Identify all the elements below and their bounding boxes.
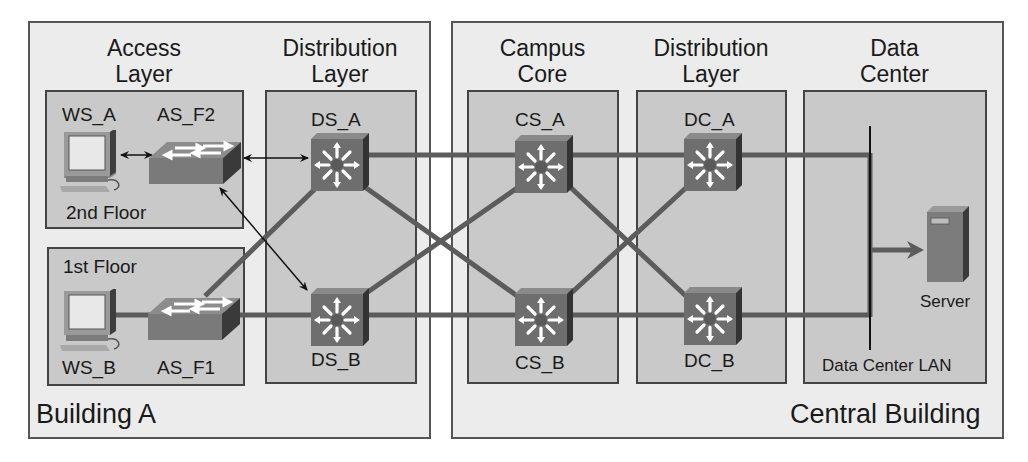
floor-label-1st: 1st Floor bbox=[63, 257, 137, 277]
layer-title-datacenter: Data Center bbox=[803, 35, 986, 87]
layer-title-line2: Layer bbox=[45, 61, 243, 87]
building-label-central: Central Building bbox=[790, 399, 981, 429]
layer-title-line1: Access bbox=[45, 35, 243, 61]
access-switch-icon[interactable] bbox=[147, 140, 243, 186]
layer-title-distribution-c: Distribution Layer bbox=[636, 35, 786, 87]
layer-title-access: Access Layer bbox=[45, 35, 243, 87]
device-label-as-f2: AS_F2 bbox=[157, 105, 215, 125]
multilayer-switch-icon-ds-a[interactable] bbox=[311, 133, 369, 191]
multilayer-switch-icon-ds-b[interactable] bbox=[311, 288, 369, 346]
layer-title-line2: Center bbox=[803, 61, 986, 87]
server-icon[interactable] bbox=[927, 206, 971, 284]
layer-title-distribution-a: Distribution Layer bbox=[265, 35, 415, 87]
floor-label-2nd: 2nd Floor bbox=[66, 203, 146, 223]
layer-title-line1: Distribution bbox=[636, 35, 786, 61]
layer-title-core: Campus Core bbox=[467, 35, 618, 87]
multilayer-switch-icon-dc-a[interactable] bbox=[684, 133, 742, 191]
layer-title-line2: Layer bbox=[636, 61, 786, 87]
multilayer-switch-icon-cs-a[interactable] bbox=[515, 135, 573, 193]
datacenter-lan-label: Data Center LAN bbox=[822, 357, 951, 375]
multilayer-switch-icon-dc-b[interactable] bbox=[684, 287, 742, 345]
workstation-icon[interactable] bbox=[60, 289, 126, 355]
layer-title-line2: Core bbox=[467, 61, 618, 87]
workstation-icon[interactable] bbox=[60, 130, 126, 196]
multilayer-switch-icon-cs-b[interactable] bbox=[515, 288, 573, 346]
device-label-cs-a: CS_A bbox=[515, 110, 565, 130]
device-label-ws-a: WS_A bbox=[62, 105, 116, 125]
layer-title-line2: Layer bbox=[265, 61, 415, 87]
layer-title-line1: Distribution bbox=[265, 35, 415, 61]
device-label-as-f1: AS_F1 bbox=[157, 358, 215, 378]
device-label-server: Server bbox=[920, 293, 970, 311]
device-label-ws-b: WS_B bbox=[62, 358, 116, 378]
device-label-dc-a: DC_A bbox=[684, 110, 735, 130]
layer-title-line1: Campus bbox=[467, 35, 618, 61]
device-label-cs-b: CS_B bbox=[515, 353, 565, 373]
layer-title-line1: Data bbox=[803, 35, 986, 61]
building-label-a: Building A bbox=[36, 399, 156, 429]
device-label-dc-b: DC_B bbox=[684, 351, 735, 371]
device-label-ds-b: DS_B bbox=[311, 350, 361, 370]
device-label-ds-a: DS_A bbox=[311, 110, 361, 130]
access-switch-icon[interactable] bbox=[146, 296, 242, 342]
